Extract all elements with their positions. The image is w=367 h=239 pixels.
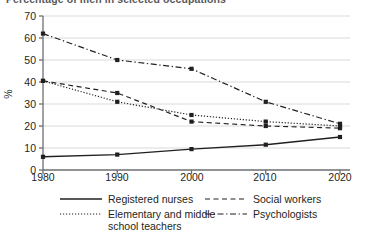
y-tick-label: 50 — [10, 55, 36, 66]
x-tick-label: 2020 — [320, 172, 360, 183]
legend-label-line2: school teachers — [108, 220, 182, 232]
chart-legend: Registered nurses Social workers Element… — [0, 190, 367, 239]
plot-area: 70 60 50 40 30 20 10 0 % 1980 1990 2000 … — [0, 0, 367, 186]
legend-key-dashdot — [205, 209, 247, 219]
series-lines — [43, 34, 340, 157]
y-tick-label: 10 — [10, 143, 36, 154]
legend-label: Psychologists — [253, 208, 317, 220]
legend-label: Social workers — [253, 193, 321, 205]
legend-label: Registered nurses — [108, 193, 193, 205]
x-tick-label: 2000 — [172, 172, 212, 183]
y-tick-label: 70 — [10, 11, 36, 22]
x-tick-label: 1990 — [97, 172, 137, 183]
legend-key-dotted — [60, 209, 102, 219]
legend-label: Elementary and middle — [108, 208, 215, 220]
y-tick-label: 20 — [10, 121, 36, 132]
chart-container: Percentage of men in selected occupation… — [0, 0, 367, 239]
axes — [39, 16, 350, 174]
y-tick-label: 60 — [10, 33, 36, 44]
x-axis-ticks: 1980 1990 2000 2010 2020 — [0, 172, 367, 188]
plot-svg — [0, 0, 367, 186]
y-axis-label: % — [2, 82, 14, 106]
x-tick-label: 1980 — [23, 172, 63, 183]
x-tick-label: 2010 — [245, 172, 285, 183]
legend-key-dashed — [205, 194, 247, 204]
series-markers — [41, 32, 342, 159]
gridlines — [43, 16, 350, 148]
legend-key-solid — [60, 194, 102, 204]
